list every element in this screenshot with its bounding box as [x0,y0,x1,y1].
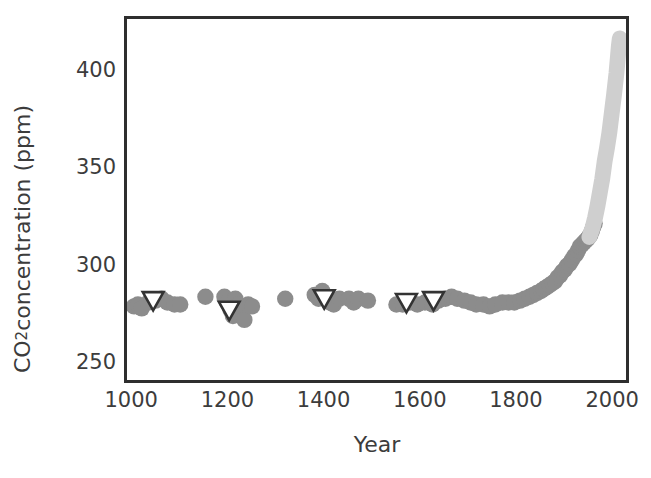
x-tick-label: 1000 [86,390,176,411]
x-tick-label: 1600 [375,390,465,411]
plot-area [124,16,629,383]
y-axis-title-subscript: 2 [13,331,31,341]
x-tick-label: 1800 [471,390,561,411]
y-tick-label: 250 [58,352,116,373]
y-tick-label: 350 [58,157,116,178]
x-tick-label: 2000 [567,390,651,411]
y-axis-title-suffix: concentration (ppm) [10,105,35,331]
y-axis-title: CO2 concentration (ppm) [0,0,44,478]
y-tick-label: 400 [58,60,116,81]
x-tick-label: 1200 [182,390,272,411]
data-series [589,38,619,237]
x-axis-title: Year [124,432,630,457]
data-markers [127,19,626,382]
data-series [127,215,603,328]
x-tick-label: 1400 [279,390,369,411]
y-tick-label: 300 [58,255,116,276]
co2-concentration-chart: CO2 concentration (ppm) 250300350400 100… [0,0,651,478]
y-axis-title-prefix: CO [10,340,35,373]
